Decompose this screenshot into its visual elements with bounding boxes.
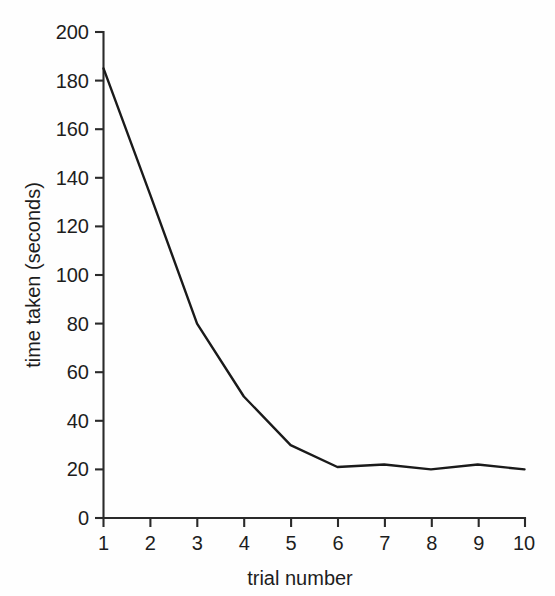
y-tick-label: 80 — [67, 313, 89, 335]
y-tick-labels: 200 180 160 140 120 100 80 60 40 20 0 — [56, 21, 89, 529]
y-tick-label: 180 — [56, 70, 89, 92]
y-tick-label: 160 — [56, 118, 89, 140]
y-tick-label: 0 — [78, 507, 89, 529]
x-tick-label: 3 — [192, 532, 203, 554]
x-tick-label: 2 — [145, 532, 156, 554]
x-tick-label: 10 — [513, 532, 535, 554]
x-tick-label: 5 — [286, 532, 297, 554]
x-tick-label: 1 — [98, 532, 109, 554]
y-tick-label: 200 — [56, 21, 89, 43]
x-tick-label: 9 — [473, 532, 484, 554]
y-tick-label: 20 — [67, 458, 89, 480]
chart-figure: 200 180 160 140 120 100 80 60 40 20 0 1 … — [0, 0, 555, 596]
y-tick-label: 120 — [56, 215, 89, 237]
y-tick-label: 40 — [67, 410, 89, 432]
y-tick-marks — [95, 32, 103, 518]
data-series-line — [104, 68, 525, 469]
x-tick-label: 4 — [239, 532, 250, 554]
x-tick-marks — [104, 518, 526, 527]
x-tick-labels: 1 2 3 4 5 6 7 8 9 10 — [98, 532, 535, 554]
x-tick-label: 6 — [332, 532, 343, 554]
y-tick-label: 140 — [56, 167, 89, 189]
x-axis-title: trial number — [247, 567, 353, 589]
y-tick-label: 60 — [67, 361, 89, 383]
y-axis-title: time taken (seconds) — [22, 182, 44, 368]
line-chart-canvas: 200 180 160 140 120 100 80 60 40 20 0 1 … — [0, 0, 555, 596]
x-tick-label: 7 — [379, 532, 390, 554]
y-tick-label: 100 — [56, 264, 89, 286]
x-tick-label: 8 — [426, 532, 437, 554]
